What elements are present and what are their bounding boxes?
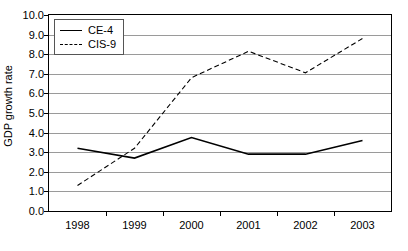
x-axis-tick-mark bbox=[106, 212, 107, 216]
x-axis-tick-label: 2001 bbox=[219, 219, 279, 231]
x-axis-tick-label: 1998 bbox=[48, 219, 108, 231]
y-axis-tick-label: 0.0 bbox=[14, 206, 44, 216]
chart-legend: CE-4CIS-9 bbox=[54, 19, 124, 55]
gdp-growth-rate-line-chart: GDP growth rate 0.01.02.03.04.05.06.07.0… bbox=[0, 0, 408, 251]
x-axis-tick-label: 1999 bbox=[105, 219, 165, 231]
legend-label: CIS-9 bbox=[88, 38, 116, 50]
y-axis-tick-label: 10.0 bbox=[14, 10, 44, 20]
y-axis-tick-label: 5.0 bbox=[14, 108, 44, 118]
y-axis-tick-label: 4.0 bbox=[14, 128, 44, 138]
y-axis-title-label: GDP growth rate bbox=[2, 65, 14, 147]
legend-label: CE-4 bbox=[88, 24, 113, 36]
x-axis-tick-label: 2000 bbox=[162, 219, 222, 231]
x-axis-tick-mark bbox=[163, 212, 164, 216]
y-axis-tick-label: 1.0 bbox=[14, 186, 44, 196]
x-axis-tick-mark bbox=[277, 212, 278, 216]
x-axis-tick-label: 2003 bbox=[333, 219, 393, 231]
x-axis-tick-mark bbox=[334, 212, 335, 216]
legend-line-swatch-icon bbox=[60, 25, 82, 35]
y-axis-tick-label: 6.0 bbox=[14, 88, 44, 98]
y-axis-tick-label: 9.0 bbox=[14, 30, 44, 40]
legend-line-swatch-icon bbox=[60, 39, 82, 49]
y-axis-tick-label: 3.0 bbox=[14, 147, 44, 157]
x-axis-tick-label: 2002 bbox=[276, 219, 336, 231]
y-axis-tick-label: 7.0 bbox=[14, 69, 44, 79]
y-axis-tick-label: 2.0 bbox=[14, 167, 44, 177]
y-axis-tick-label: 8.0 bbox=[14, 49, 44, 59]
series-line-cis-9 bbox=[78, 39, 363, 186]
legend-item-ce-4[interactable]: CE-4 bbox=[60, 23, 116, 37]
x-axis-tick-mark bbox=[220, 212, 221, 216]
y-axis-tick-labels: 0.01.02.03.04.05.06.07.08.09.010.0 bbox=[14, 14, 44, 212]
legend-item-cis-9[interactable]: CIS-9 bbox=[60, 37, 116, 51]
series-line-ce-4 bbox=[78, 138, 363, 159]
